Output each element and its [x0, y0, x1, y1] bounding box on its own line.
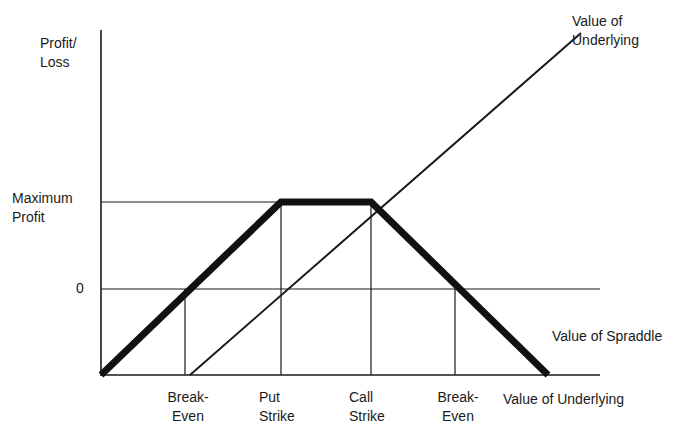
call-strike-line2: Strike: [349, 407, 385, 426]
put-strike-label: Put Strike: [259, 388, 295, 426]
break-even-right-line1: Break-: [428, 388, 488, 407]
break-even-left-line1: Break-: [158, 388, 218, 407]
put-strike-line2: Strike: [259, 407, 295, 426]
underlying-series-label-line1: Value of: [572, 12, 639, 31]
call-strike-label: Call Strike: [349, 388, 385, 426]
zero-label: 0: [76, 279, 84, 298]
break-even-right-label: Break- Even: [428, 388, 488, 426]
call-strike-line1: Call: [349, 388, 385, 407]
underlying-value-line: [190, 33, 581, 375]
max-profit-label-line1: Maximum: [12, 189, 73, 208]
underlying-series-label: Value of Underlying: [572, 12, 639, 50]
break-even-left-label: Break- Even: [158, 388, 218, 426]
y-axis-label-line1: Profit/: [40, 34, 77, 53]
spraddle-series-label: Value of Spraddle: [552, 327, 662, 346]
underlying-series-label-line2: Underlying: [572, 31, 639, 50]
break-even-left-line2: Even: [158, 407, 218, 426]
y-axis-label: Profit/ Loss: [40, 34, 77, 72]
x-axis-label: Value of Underlying: [503, 390, 624, 409]
y-axis-label-line2: Loss: [40, 53, 77, 72]
put-strike-line1: Put: [259, 388, 295, 407]
spraddle-diagram: [0, 0, 684, 439]
break-even-right-line2: Even: [428, 407, 488, 426]
max-profit-label: Maximum Profit: [12, 189, 73, 227]
max-profit-label-line2: Profit: [12, 208, 73, 227]
